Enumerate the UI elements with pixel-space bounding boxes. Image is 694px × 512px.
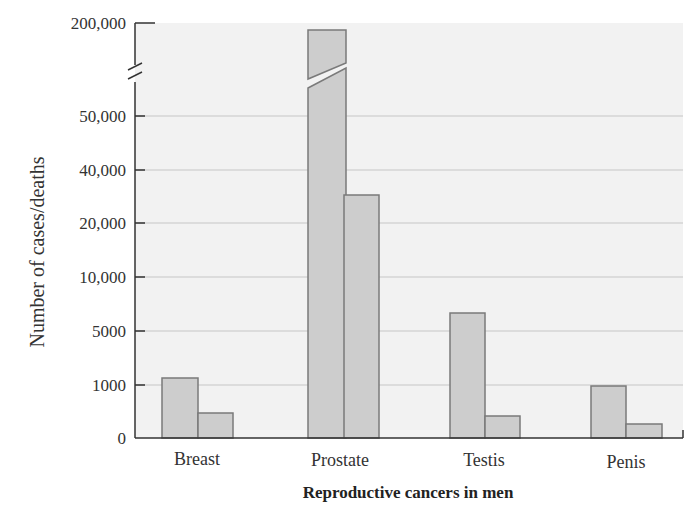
- y-tick-20000: 20,000: [79, 214, 126, 233]
- category-breast: Breast: [174, 449, 220, 469]
- bar-chart: 0 1000 5000 10,000 20,000 40,000 50,000 …: [0, 0, 694, 512]
- y-tick-10000: 10,000: [79, 268, 126, 287]
- y-tick-labels: 0 1000 5000 10,000 20,000 40,000 50,000 …: [71, 14, 126, 448]
- bar-testis-deaths: [485, 416, 520, 438]
- bar-breast-cases: [162, 378, 198, 438]
- y-tick-200000: 200,000: [71, 14, 126, 33]
- y-axis-title: Number of cases/deaths: [26, 156, 48, 347]
- category-penis: Penis: [606, 452, 645, 472]
- bar-testis-cases: [450, 313, 485, 438]
- bar-breast-deaths: [198, 413, 233, 438]
- y-tick-1000: 1000: [92, 376, 126, 395]
- bar-prostate-cases-bottom: [308, 68, 346, 438]
- bar-penis-cases: [591, 386, 626, 438]
- bar-penis-deaths: [626, 424, 662, 438]
- y-tick-5000: 5000: [92, 322, 126, 341]
- plot-panel: [135, 23, 683, 438]
- x-category-labels: Breast Prostate Testis Penis: [174, 449, 646, 472]
- y-tick-40000: 40,000: [79, 161, 126, 180]
- bar-prostate-deaths: [344, 195, 379, 438]
- category-testis: Testis: [463, 450, 505, 470]
- y-tick-50000: 50,000: [79, 107, 126, 126]
- x-axis-title: Reproductive cancers in men: [303, 483, 514, 502]
- y-tick-0: 0: [118, 429, 127, 448]
- category-prostate: Prostate: [311, 450, 369, 470]
